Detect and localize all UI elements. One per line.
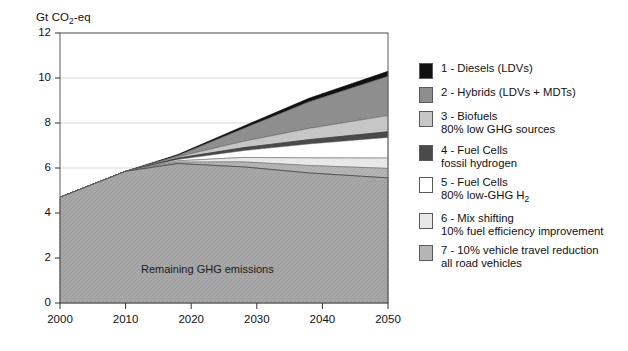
band-remaining-ghg-emissions <box>60 164 388 304</box>
legend-label-fuel-cells-fossil-line2: fossil hydrogen <box>441 157 517 170</box>
x-tick-label-2020: 2020 <box>163 313 219 325</box>
legend-swatch-mix-shifting <box>419 213 433 229</box>
y-tick-label-2: 2 <box>6 251 51 263</box>
y-tick-label-6: 6 <box>6 161 51 173</box>
legend-label-diesels-line1: 1 - Diesels (LDVs) <box>441 62 533 75</box>
legend-swatch-diesels <box>419 63 433 79</box>
legend-label-fuel-cells-low-ghg-line2: 80% low-GHG H2 <box>441 189 529 207</box>
legend-item-diesels[interactable]: 1 - Diesels (LDVs) <box>419 62 624 79</box>
x-tick-label-2030: 2030 <box>229 313 285 325</box>
y-tick-label-4: 4 <box>6 206 51 218</box>
legend: 1 - Diesels (LDVs) 2 - Hybrids (LDVs + M… <box>419 62 624 275</box>
remaining-ghg-emissions-label: Remaining GHG emissions <box>141 263 274 275</box>
legend-swatch-biofuels <box>419 111 433 127</box>
legend-label-fuel-cells-low-ghg-line1: 5 - Fuel Cells <box>441 176 529 189</box>
y-tick-marks <box>55 33 60 303</box>
legend-swatch-fuel-cells-low-ghg <box>419 177 433 193</box>
legend-label-biofuels: 3 - Biofuels 80% low GHG sources <box>441 110 555 137</box>
legend-label-hybrids: 2 - Hybrids (LDVs + MDTs) <box>441 86 576 99</box>
legend-item-fuel-cells-low-ghg[interactable]: 5 - Fuel Cells 80% low-GHG H2 <box>419 176 624 207</box>
y-tick-label-8: 8 <box>6 116 51 128</box>
legend-item-travel-reduction[interactable]: 7 - 10% vehicle travel reduction all roa… <box>419 244 624 271</box>
x-tick-label-2040: 2040 <box>294 313 350 325</box>
legend-label-travel-reduction-line1: 7 - 10% vehicle travel reduction <box>441 244 599 257</box>
legend-item-mix-shifting[interactable]: 6 - Mix shifting 10% fuel efficiency imp… <box>419 212 624 239</box>
legend-label-fuel-cells-low-ghg: 5 - Fuel Cells 80% low-GHG H2 <box>441 176 529 207</box>
legend-label-fuel-cells-fossil-line1: 4 - Fuel Cells <box>441 144 517 157</box>
legend-label-diesels: 1 - Diesels (LDVs) <box>441 62 533 75</box>
legend-label-fuel-cells-fossil: 4 - Fuel Cells fossil hydrogen <box>441 144 517 171</box>
x-tick-label-2050: 2050 <box>360 313 416 325</box>
legend-item-biofuels[interactable]: 3 - Biofuels 80% low GHG sources <box>419 110 624 137</box>
y-axis-title: Gt CO2-eq <box>36 11 91 26</box>
y-tick-label-12: 12 <box>6 26 51 38</box>
legend-swatch-hybrids <box>419 87 433 103</box>
legend-swatch-travel-reduction <box>419 245 433 261</box>
x-tick-marks <box>60 303 388 309</box>
x-tick-label-2000: 2000 <box>32 313 88 325</box>
legend-label-mix-shifting-line1: 6 - Mix shifting <box>441 212 603 225</box>
legend-label-biofuels-line2: 80% low GHG sources <box>441 123 555 136</box>
y-tick-label-10: 10 <box>6 71 51 83</box>
legend-label-travel-reduction-line2: all road vehicles <box>441 257 599 270</box>
x-tick-label-2010: 2010 <box>98 313 154 325</box>
legend-swatch-fuel-cells-fossil <box>419 145 433 161</box>
legend-label-biofuels-line1: 3 - Biofuels <box>441 110 555 123</box>
legend-label-mix-shifting: 6 - Mix shifting 10% fuel efficiency imp… <box>441 212 603 239</box>
y-tick-label-0: 0 <box>6 296 51 308</box>
legend-label-travel-reduction: 7 - 10% vehicle travel reduction all roa… <box>441 244 599 271</box>
legend-label-hybrids-line1: 2 - Hybrids (LDVs + MDTs) <box>441 86 576 99</box>
legend-item-fuel-cells-fossil[interactable]: 4 - Fuel Cells fossil hydrogen <box>419 144 624 171</box>
legend-label-mix-shifting-line2: 10% fuel efficiency improvement <box>441 225 603 238</box>
legend-item-hybrids[interactable]: 2 - Hybrids (LDVs + MDTs) <box>419 86 624 103</box>
